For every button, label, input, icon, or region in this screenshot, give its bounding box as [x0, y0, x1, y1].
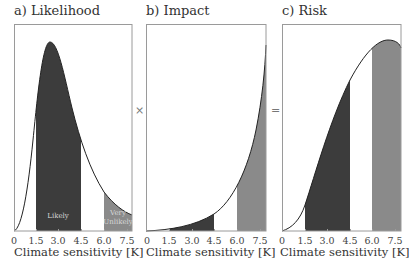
equals-operator: = — [271, 104, 280, 117]
panel-b-plot — [146, 24, 266, 231]
very-unlikely-region — [104, 24, 132, 231]
panel-a-plot: Likely Very Unlikely — [14, 24, 133, 231]
panel-a-xlabel: Climate sensitivity [K] — [14, 245, 136, 259]
risk-dark-region — [305, 24, 350, 231]
impact-light-region — [237, 24, 266, 231]
risk-chart-svg: Likely Very Unlikely — [0, 0, 409, 275]
panel-c-xlabel: Climate sensitivity [K] — [280, 245, 402, 259]
very-unlikely-label-1: Very — [109, 209, 126, 217]
risk-light-region — [372, 24, 401, 231]
panel-c-plot — [282, 24, 401, 231]
very-unlikely-label-2: Unlikely — [103, 218, 133, 226]
impact-dark-region — [169, 24, 214, 231]
times-operator: × — [135, 104, 144, 117]
panel-b-xlabel: Climate sensitivity [K] — [146, 245, 268, 259]
likely-label: Likely — [47, 212, 69, 220]
